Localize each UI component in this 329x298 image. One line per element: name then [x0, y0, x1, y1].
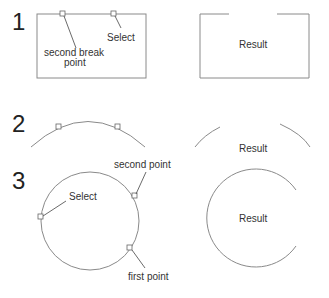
circle-first-point-label: first point: [128, 271, 169, 282]
circle-select-marker: [38, 214, 43, 219]
step-2-number: 2: [12, 110, 25, 137]
circle-second-point-leader: [136, 172, 146, 194]
circle-first-point-leader: [132, 250, 145, 268]
circle-first-point-marker: [127, 245, 132, 250]
select-leader: [115, 16, 121, 28]
step-1-rectangle: [37, 14, 146, 78]
break-command-diagram: 1 Select second break point Result 2 Res…: [0, 0, 329, 298]
arc-break-marker-1: [56, 124, 61, 129]
select-label-1: Select: [107, 32, 135, 43]
step-1-result-label: Result: [239, 39, 268, 50]
step-3-result-label: Result: [239, 213, 268, 224]
step-3-number: 3: [12, 167, 25, 194]
second-break-point-marker: [60, 11, 65, 16]
second-break-leader: [64, 16, 76, 48]
step-2-arc: [31, 122, 145, 148]
step-1-number: 1: [12, 8, 25, 35]
step-2-result-arc-right: [280, 124, 310, 147]
circle-select-leader: [43, 201, 66, 216]
arc-break-marker-2: [115, 124, 120, 129]
step-2-result-arc-left: [195, 127, 220, 147]
step-3-circle: [41, 172, 139, 270]
select-point-marker: [111, 11, 116, 16]
circle-second-point-label: second point: [114, 159, 171, 170]
step-2-result-label: Result: [239, 143, 268, 154]
circle-select-label: Select: [69, 191, 97, 202]
second-break-label-line2: point: [64, 57, 86, 68]
